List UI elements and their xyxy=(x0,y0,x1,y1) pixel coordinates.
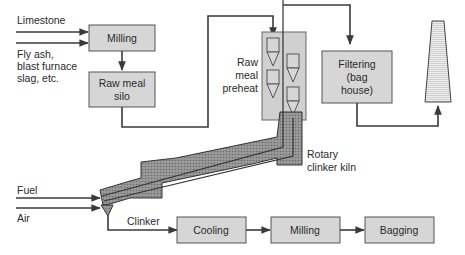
milling-bottom-node: Milling xyxy=(271,217,340,243)
raw-meal-preheat-node: Raw meal preheat xyxy=(222,32,306,120)
clinker-label: Clinker xyxy=(127,215,160,227)
kiln-label-1: Rotary xyxy=(307,148,339,160)
filter-label-1: Filtering xyxy=(338,58,376,70)
fly-ash-label-1: Fly ash, xyxy=(17,48,54,60)
milling-bottom-label: Milling xyxy=(290,224,320,236)
silo-label-2: silo xyxy=(114,90,130,102)
air-label: Air xyxy=(17,212,30,224)
milling-top-node: Milling xyxy=(89,25,155,51)
cooling-node: Cooling xyxy=(177,217,246,243)
stack-chimney-icon xyxy=(425,21,451,102)
kiln-label-2: clinker kiln xyxy=(307,161,356,173)
bagging-label: Bagging xyxy=(380,224,419,236)
fuel-label: Fuel xyxy=(17,184,37,196)
air-input: Air xyxy=(16,208,100,224)
filter-label-2: (bag xyxy=(346,71,367,83)
limestone-input: Limestone xyxy=(16,14,88,32)
cooling-label: Cooling xyxy=(193,224,229,236)
silo-label-1: Raw meal xyxy=(99,77,146,89)
filter-label-3: house) xyxy=(341,84,373,96)
raw-meal-silo-node: Raw meal silo xyxy=(89,72,155,107)
filtering-bag-house-node: Filtering (bag house) xyxy=(322,51,392,103)
milling-top-label: Milling xyxy=(107,32,137,44)
fuel-input: Fuel xyxy=(16,184,100,198)
cement-process-diagram: Limestone Fly ash, blast furnace slag, e… xyxy=(0,0,465,255)
fly-ash-label-2: blast furnace xyxy=(17,60,77,72)
preheat-label-3: preheat xyxy=(222,82,258,94)
fly-ash-input: Fly ash, blast furnace slag, etc. xyxy=(16,43,88,84)
preheat-label-1: Raw xyxy=(237,56,258,68)
limestone-label: Limestone xyxy=(17,14,66,26)
preheat-label-2: meal xyxy=(235,69,258,81)
fly-ash-label-3: slag, etc. xyxy=(17,72,59,84)
bagging-node: Bagging xyxy=(365,217,434,243)
